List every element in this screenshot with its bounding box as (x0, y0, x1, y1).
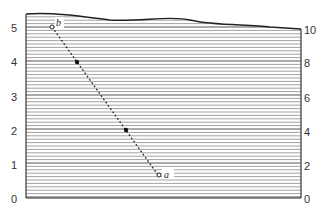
point-a-marker (157, 173, 161, 177)
right-tick-0: 0 (304, 193, 310, 205)
left-tick-0: 0 (11, 193, 17, 205)
right-tick-labels: 10 8 6 4 2 0 (304, 24, 316, 205)
left-tick-1: 1 (11, 159, 17, 171)
point-a-label: a (164, 169, 169, 180)
right-tick-6: 6 (304, 92, 310, 104)
point-b-label: b (56, 17, 61, 28)
right-tick-2: 2 (304, 160, 310, 172)
left-tick-3: 3 (11, 91, 17, 103)
right-tick-10: 10 (304, 24, 316, 36)
left-tick-2: 2 (11, 125, 17, 137)
point-b-marker (50, 25, 54, 29)
left-tick-4: 4 (11, 56, 17, 68)
left-tick-labels: 5 4 3 2 1 0 (11, 22, 17, 205)
chart: 5 4 3 2 1 0 10 8 6 4 2 0 b a (0, 0, 326, 212)
right-tick-8: 8 (304, 57, 310, 69)
point-marker (75, 60, 79, 64)
left-tick-5: 5 (11, 22, 17, 34)
right-tick-4: 4 (304, 126, 310, 138)
point-marker (124, 128, 128, 132)
